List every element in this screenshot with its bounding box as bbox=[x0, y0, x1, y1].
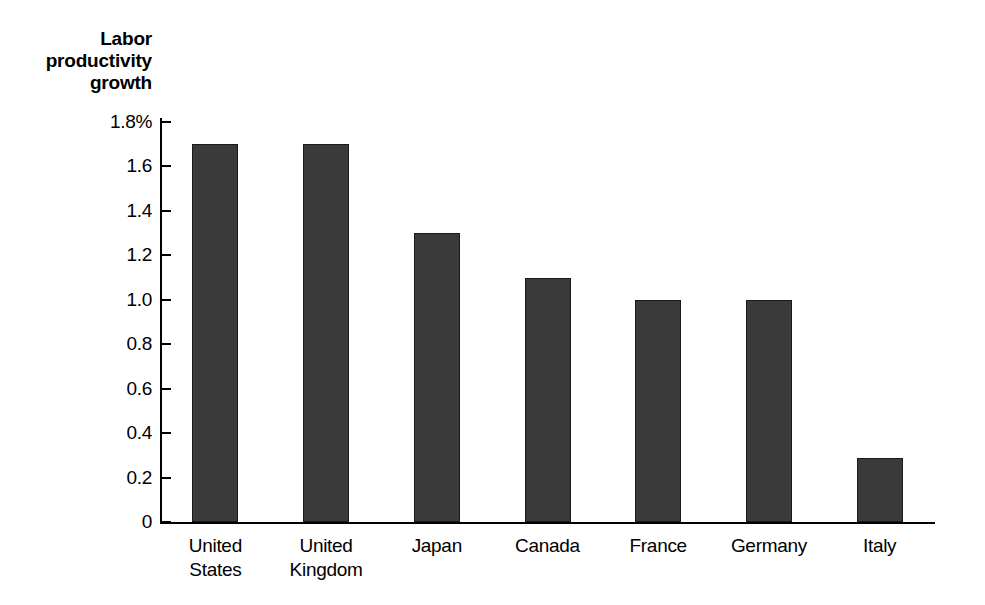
bar bbox=[635, 300, 681, 522]
bars-layer bbox=[0, 0, 985, 605]
bar bbox=[746, 300, 792, 522]
bar bbox=[857, 458, 903, 522]
bar bbox=[303, 144, 349, 522]
bar bbox=[192, 144, 238, 522]
x-axis-category-label: Italy bbox=[805, 534, 955, 558]
bar bbox=[414, 233, 460, 522]
bar-chart: Labor productivity growth 1.8%1.61.41.21… bbox=[0, 0, 985, 605]
bar bbox=[525, 278, 571, 522]
